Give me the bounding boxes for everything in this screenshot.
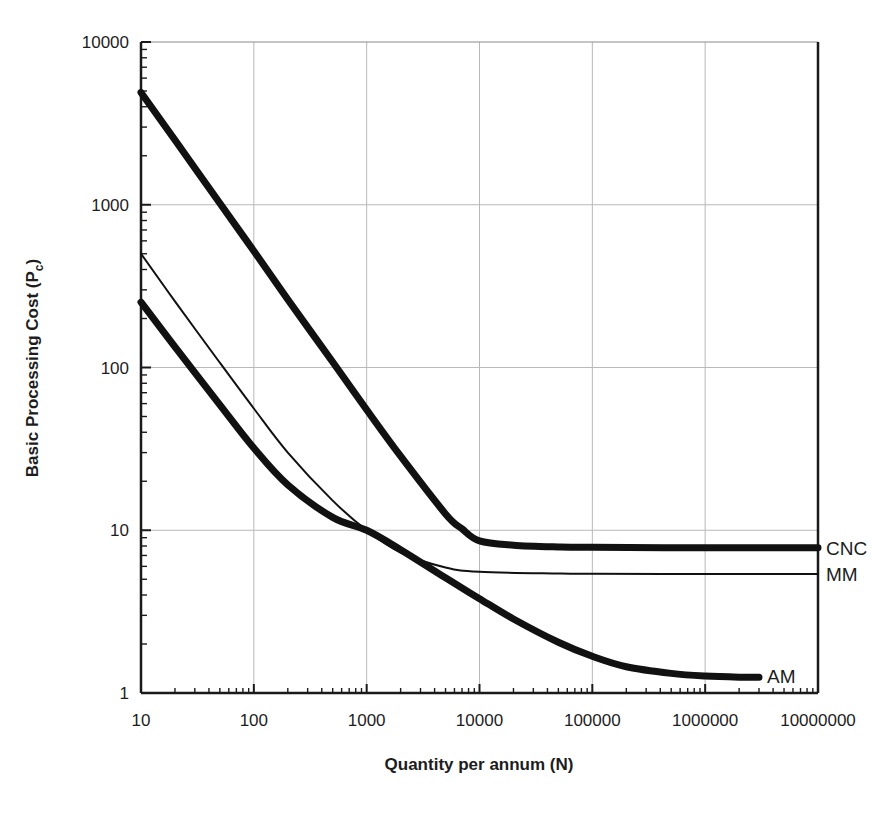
x-tick-label: 100 bbox=[240, 711, 268, 730]
series-label-am: AM bbox=[767, 666, 796, 687]
series-label-cnc: CNC bbox=[826, 538, 867, 559]
x-tick-label: 1000 bbox=[348, 711, 386, 730]
y-tick-label: 1000 bbox=[91, 196, 129, 215]
x-tick-label: 10000000 bbox=[780, 711, 856, 730]
series-label-mm: MM bbox=[826, 564, 858, 585]
x-tick-label: 10000 bbox=[456, 711, 503, 730]
x-tick-label: 1000000 bbox=[672, 711, 738, 730]
y-tick-label: 10 bbox=[110, 521, 129, 540]
log-log-line-chart: 10100100010000100000100000010000000 1101… bbox=[0, 0, 888, 821]
chart-figure: 10100100010000100000100000010000000 1101… bbox=[0, 0, 888, 821]
chart-background bbox=[0, 0, 888, 821]
x-tick-label: 10 bbox=[132, 711, 151, 730]
x-axis-title: Quantity per annum (N) bbox=[385, 755, 574, 774]
x-tick-label: 100000 bbox=[564, 711, 621, 730]
y-tick-label: 1 bbox=[120, 684, 129, 703]
y-tick-label: 10000 bbox=[82, 33, 129, 52]
y-tick-label: 100 bbox=[101, 359, 129, 378]
